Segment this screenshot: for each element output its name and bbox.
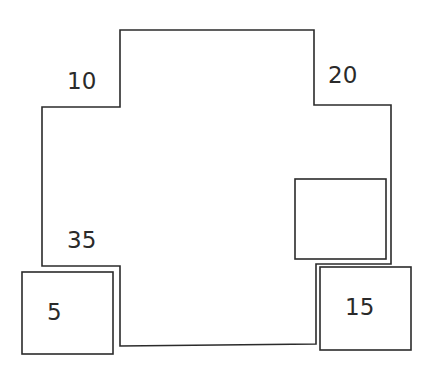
label-box-15: 15 <box>345 294 374 320</box>
diagram-canvas: 10 20 35 5 15 <box>0 0 435 375</box>
label-top-left-step: 10 <box>67 68 96 94</box>
inner-box <box>295 179 386 259</box>
label-box-5: 5 <box>47 299 62 325</box>
label-top-right-step: 20 <box>328 62 357 88</box>
label-bottom-left-step: 35 <box>67 227 96 253</box>
box-5 <box>22 272 113 354</box>
